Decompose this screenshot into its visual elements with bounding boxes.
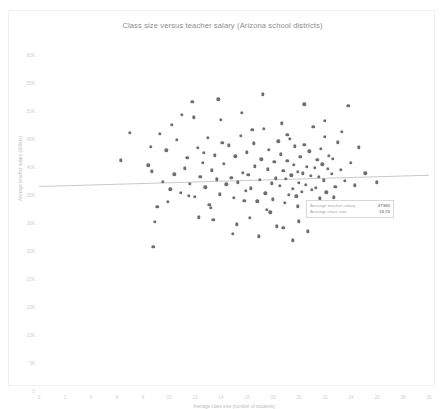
y-axis-tick: 15K <box>27 305 35 310</box>
summary-tooltip: Average teacher salary37360Average class… <box>306 200 394 218</box>
x-axis-tick: 8 <box>142 395 145 400</box>
chart-title: Class size versus teacher salary (Arizon… <box>9 21 436 30</box>
y-axis-tick: 30K <box>27 221 35 226</box>
y-axis-tick: 55K <box>27 81 35 86</box>
summary-row: Average class size19.70 <box>310 209 390 215</box>
x-axis-tick: 30 <box>426 395 431 400</box>
y-axis-tick: 40K <box>27 165 35 170</box>
x-axis-tick: 26 <box>374 395 379 400</box>
y-axis-label: Average teacher salary (dollars) <box>18 136 23 201</box>
summary-label: Average class size <box>310 209 347 215</box>
x-axis-tick: 12 <box>192 395 197 400</box>
y-axis-tick: 10K <box>27 333 35 338</box>
x-axis-tick: 6 <box>116 395 119 400</box>
x-axis-tick: 14 <box>218 395 223 400</box>
x-axis-tick: 24 <box>348 395 353 400</box>
y-axis-tick: 45K <box>27 137 35 142</box>
x-axis-tick: 10 <box>166 395 171 400</box>
y-axis-tick: 35K <box>27 193 35 198</box>
y-axis-tick: 60K <box>27 53 35 58</box>
y-axis-tick: 20K <box>27 277 35 282</box>
summary-value: 19.70 <box>373 209 390 215</box>
y-axis-tick: 25K <box>27 249 35 254</box>
x-axis-tick: 0 <box>38 395 41 400</box>
y-axis-tick: 5K <box>29 361 35 366</box>
x-axis-tick: 22 <box>322 395 327 400</box>
x-axis-tick: 20 <box>296 395 301 400</box>
x-axis-tick: 2 <box>64 395 67 400</box>
x-axis-label: Average class size (number of students) <box>39 404 429 409</box>
x-axis-tick: 16 <box>244 395 249 400</box>
y-axis-tick: 0 <box>32 389 35 394</box>
scatter-plot-area: 05K10K15K20K25K30K35K40K45K50K55K60K0246… <box>39 55 429 391</box>
chart-card: Class size versus teacher salary (Arizon… <box>8 10 435 386</box>
x-axis-tick: 4 <box>90 395 93 400</box>
x-axis-tick: 18 <box>270 395 275 400</box>
x-axis-tick: 28 <box>400 395 405 400</box>
y-axis-tick: 50K <box>27 109 35 114</box>
